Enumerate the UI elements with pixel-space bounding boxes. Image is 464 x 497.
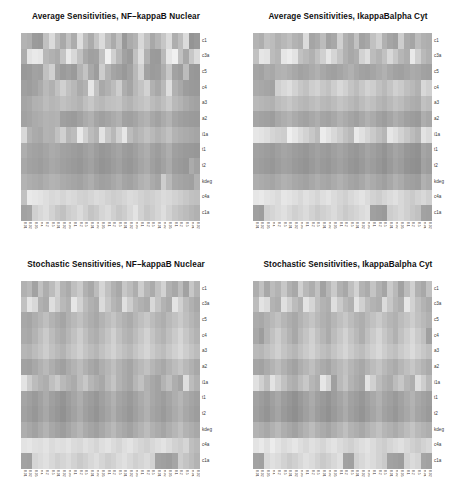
heatmap-cell	[194, 297, 200, 313]
heatmap-cell	[426, 359, 432, 375]
row-label: t2	[202, 406, 230, 422]
heatmap-cell	[194, 174, 200, 190]
heatmap-cell	[194, 64, 200, 80]
heatmap-cell	[194, 359, 200, 375]
heatmap-cell	[194, 391, 200, 407]
row-label: c3a	[434, 297, 462, 313]
heatmap-cell	[426, 328, 432, 344]
panel-average-ikappabalpha-cyt: Average Sensitivities, IkappaBalpha Cyt …	[232, 0, 464, 248]
heatmap-plot-area	[253, 281, 432, 469]
row-label: c5	[202, 64, 230, 80]
heatmap-cell	[426, 127, 432, 143]
column-label: 0.02	[194, 470, 200, 492]
heatmap-cell	[194, 111, 200, 127]
row-label: c1a	[434, 453, 462, 469]
row-label: c3a	[202, 297, 230, 313]
heatmap-cell	[194, 143, 200, 159]
row-label: i1a	[202, 127, 230, 143]
heatmap-cell	[426, 438, 432, 454]
heatmap-cell	[426, 453, 432, 469]
row-label: t2	[434, 158, 462, 174]
heatmap-cell	[426, 190, 432, 206]
row-label: a2	[434, 359, 462, 375]
heatmap-cell	[194, 453, 200, 469]
row-label: c3a	[202, 49, 230, 65]
heatmap-cell	[426, 143, 432, 159]
row-label: a3	[434, 344, 462, 360]
row-label: a2	[202, 111, 230, 127]
heatmap-cell	[426, 111, 432, 127]
heatmap-plot-area	[21, 33, 200, 221]
heatmap-cell	[194, 438, 200, 454]
column-axis-labels: 0.010.020.050.10.20.50.010.020.050.10.20…	[253, 470, 432, 492]
row-label: c4	[202, 328, 230, 344]
heatmap-grid	[21, 33, 200, 221]
row-label: c4a	[434, 438, 462, 454]
row-label: kdeg	[434, 174, 462, 190]
heatmap-cell	[426, 406, 432, 422]
row-label: t1	[202, 143, 230, 159]
heatmap-cell	[426, 96, 432, 112]
row-label: c3a	[434, 49, 462, 65]
sensitivity-heatmap-figure: Average Sensitivities, NF–kappaB Nuclear…	[0, 0, 464, 497]
row-label: c5	[202, 312, 230, 328]
row-label: a3	[434, 96, 462, 112]
panel-average-nfkappab-nuclear: Average Sensitivities, NF–kappaB Nuclear…	[0, 0, 232, 248]
row-label: i1a	[434, 127, 462, 143]
heatmap-cell	[194, 422, 200, 438]
heatmap-cell	[194, 33, 200, 49]
row-label: c5	[434, 312, 462, 328]
heatmap-cell	[194, 281, 200, 297]
heatmap-cell	[194, 190, 200, 206]
heatmap-cell	[426, 312, 432, 328]
heatmap-cell	[194, 96, 200, 112]
row-label: c1a	[202, 453, 230, 469]
heatmap-cell	[426, 80, 432, 96]
row-label: c1	[202, 33, 230, 49]
row-label: c1a	[434, 205, 462, 221]
row-label: i1a	[434, 375, 462, 391]
row-label: c1a	[202, 205, 230, 221]
panel-title: Average Sensitivities, IkappaBalpha Cyt	[232, 12, 464, 21]
row-label: c1	[434, 281, 462, 297]
heatmap-cell	[194, 205, 200, 221]
heatmap-cell	[194, 80, 200, 96]
heatmap-cell	[194, 375, 200, 391]
row-axis-labels: c1c3ac5c4a3a2i1at1t2kdegc4ac1a	[202, 281, 230, 469]
heatmap-cell	[426, 49, 432, 65]
row-label: c5	[434, 64, 462, 80]
heatmap-cell	[426, 297, 432, 313]
row-label: c1	[434, 33, 462, 49]
row-label: c4	[202, 80, 230, 96]
row-label: t2	[434, 406, 462, 422]
row-label: c4a	[202, 190, 230, 206]
heatmap-grid	[21, 281, 200, 469]
row-label: t2	[202, 158, 230, 174]
heatmap-cell	[426, 205, 432, 221]
row-label: a2	[434, 111, 462, 127]
heatmap-cell	[194, 344, 200, 360]
row-label: c4a	[202, 438, 230, 454]
row-axis-labels: c1c3ac5c4a3a2i1at1t2kdegc4ac1a	[434, 281, 462, 469]
heatmap-plot-area	[21, 281, 200, 469]
column-axis-labels: 0.010.020.050.10.20.50.010.020.050.10.20…	[21, 470, 200, 492]
column-label: 0.02	[194, 222, 200, 244]
panel-title: Stochastic Sensitivities, NF–kappaB Nucl…	[0, 260, 232, 269]
row-label: i1a	[202, 375, 230, 391]
row-label: a2	[202, 359, 230, 375]
heatmap-cell	[194, 158, 200, 174]
heatmap-cell	[194, 328, 200, 344]
row-label: t1	[202, 391, 230, 407]
row-axis-labels: c1c3ac5c4a3a2i1at1t2kdegc4ac1a	[202, 33, 230, 221]
heatmap-cell	[426, 174, 432, 190]
column-axis-labels: 0.010.020.050.10.20.50.010.020.050.10.20…	[21, 222, 200, 244]
row-label: kdeg	[202, 422, 230, 438]
heatmap-cell	[194, 312, 200, 328]
column-label: 0.02	[426, 222, 432, 244]
heatmap-cell	[426, 375, 432, 391]
row-label: t1	[434, 143, 462, 159]
row-label: c1	[202, 281, 230, 297]
row-axis-labels: c1c3ac5c4a3a2i1at1t2kdegc4ac1a	[434, 33, 462, 221]
panel-title: Average Sensitivities, NF–kappaB Nuclear	[0, 12, 232, 21]
panel-stochastic-nfkappab-nuclear: Stochastic Sensitivities, NF–kappaB Nucl…	[0, 248, 232, 497]
